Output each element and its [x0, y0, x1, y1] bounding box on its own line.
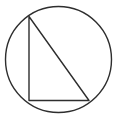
- figure-svg: [0, 0, 118, 119]
- geometry-figure: [0, 0, 118, 119]
